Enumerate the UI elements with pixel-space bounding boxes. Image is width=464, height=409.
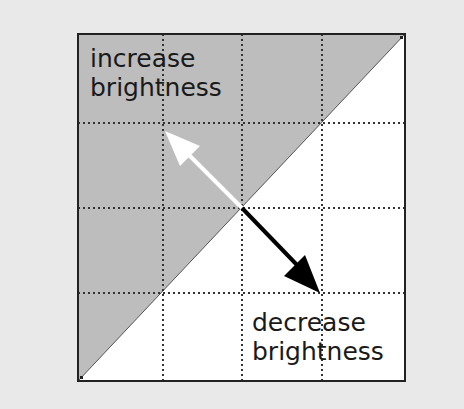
increase-label-line2: brightness <box>90 73 222 102</box>
decrease-label-line1: decrease <box>252 308 384 337</box>
decrease-label-line2: brightness <box>252 337 384 366</box>
decrease-brightness-label: decrease brightness <box>252 308 384 366</box>
increase-label-line1: increase <box>90 44 222 73</box>
increase-brightness-label: increase brightness <box>90 44 222 102</box>
corner-marker-bottom-left <box>80 376 83 379</box>
corner-marker-top-right <box>400 36 403 39</box>
brightness-curve-diagram <box>0 0 464 409</box>
